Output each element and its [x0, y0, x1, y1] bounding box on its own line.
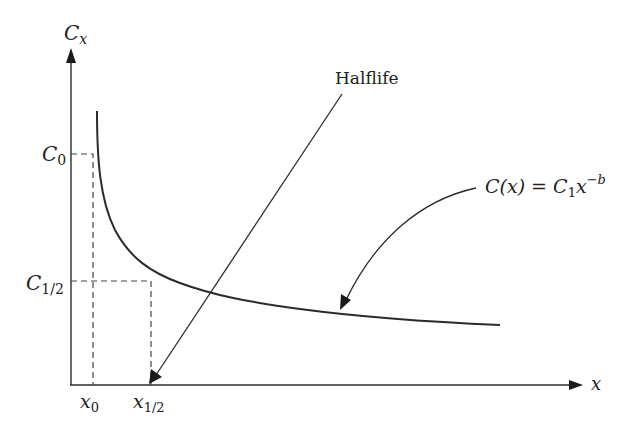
x-axis-label: x: [591, 373, 601, 394]
y-axis-arrow-icon: [66, 48, 76, 63]
chalf-label: C1/2: [26, 271, 64, 297]
xhalf-label: x1/2: [133, 390, 165, 415]
halflife-arrow: [156, 94, 342, 375]
x-axis-arrow-icon: [569, 380, 583, 390]
power-law-diagram: Cx x C0 C1/2 x0 x1/2 Halflife C(x) = C1x…: [0, 0, 628, 431]
y-axis-label: Cx: [64, 21, 87, 47]
chalf-guide-dashed: [71, 281, 151, 385]
x0-label: x0: [80, 390, 99, 415]
formula-pointer-arrow: [346, 188, 476, 300]
halflife-label: Halflife: [335, 68, 399, 88]
power-law-curve: [97, 111, 500, 325]
halflife-arrowhead-icon: [149, 369, 162, 384]
formula-label: C(x) = C1x−b: [485, 172, 606, 200]
c0-guide-dashed: [71, 154, 93, 385]
c0-label: C0: [42, 142, 66, 168]
formula-arrowhead-icon: [340, 294, 351, 310]
